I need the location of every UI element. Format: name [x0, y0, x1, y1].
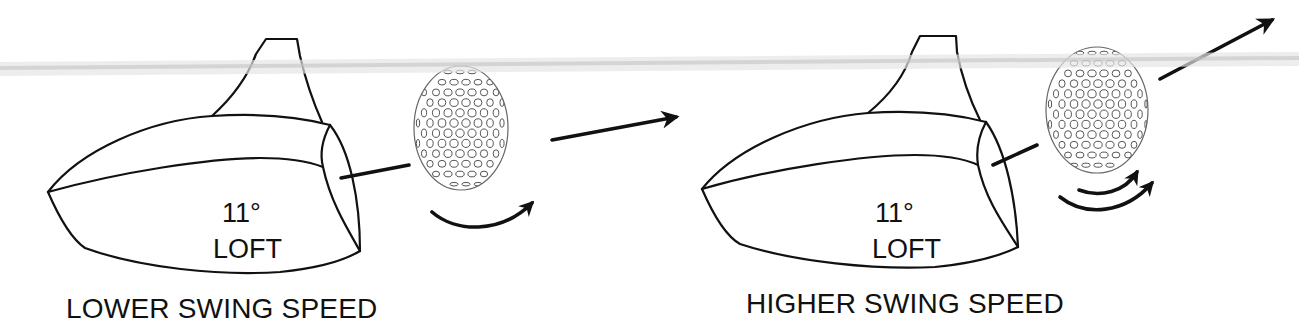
diagram-canvas: 11° LOFT LOWER SWING SPEED 11° LOFT — [0, 0, 1299, 324]
spin-arrow-icon — [1060, 183, 1152, 210]
driver-club-head-icon — [702, 36, 1018, 268]
loft-value: 11° — [222, 198, 261, 228]
trajectory-arrow-icon — [552, 117, 676, 140]
caption-higher-swing-speed: HIGHER SWING SPEED — [746, 288, 1064, 319]
loft-value: 11° — [875, 198, 914, 228]
loft-label: LOFT — [213, 234, 282, 264]
spin-arrow-icon — [1079, 172, 1137, 193]
trajectory-arrow-icon — [1160, 20, 1272, 79]
spin-arrow-icon — [432, 203, 532, 227]
golf-ball-icon — [414, 66, 508, 190]
panel-lower-swing-speed: 11° LOFT LOWER SWING SPEED — [48, 39, 676, 324]
loft-label: LOFT — [872, 234, 941, 264]
caption-lower-swing-speed: LOWER SWING SPEED — [66, 293, 377, 324]
